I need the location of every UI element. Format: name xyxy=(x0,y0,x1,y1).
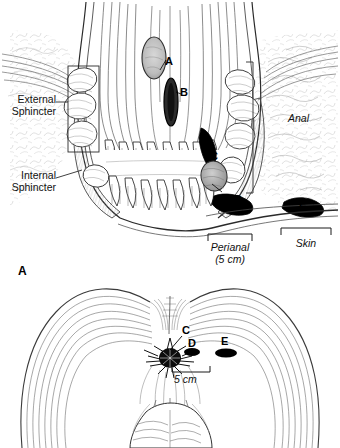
scale-label: 5 cm xyxy=(174,374,197,386)
marker-a-top: A xyxy=(165,55,173,67)
skin-label: Skin xyxy=(286,238,326,250)
external-sphincter-label-line1: External xyxy=(17,93,56,105)
internal-sphincter-label: Internal Sphincter xyxy=(0,170,56,194)
anorectal-abscess-figure: External Sphincter Internal Sphincter An… xyxy=(0,0,340,448)
anal-label: Anal xyxy=(288,113,309,125)
internal-sphincter-label-line2: Sphincter xyxy=(12,181,56,193)
panel-a-label: A xyxy=(18,265,27,278)
marker-b-top: B xyxy=(180,86,188,98)
perianal-label: Perianal (5 cm) xyxy=(200,242,260,266)
perianal-label-line2: (5 cm) xyxy=(215,253,245,265)
marker-d-top: D xyxy=(234,193,242,205)
marker-c-bottom: C xyxy=(182,324,190,336)
marker-e-top: E xyxy=(299,197,306,209)
external-sphincter-label: External Sphincter xyxy=(0,94,56,118)
internal-sphincter-label-line1: Internal xyxy=(21,169,56,181)
abscess-e-dot xyxy=(215,349,237,358)
marker-c-top: C xyxy=(210,150,218,162)
marker-d-bottom: D xyxy=(188,337,196,349)
external-sphincter-label-line2: Sphincter xyxy=(12,105,56,117)
marker-e-bottom: E xyxy=(221,335,228,347)
perianal-label-line1: Perianal xyxy=(211,241,250,253)
